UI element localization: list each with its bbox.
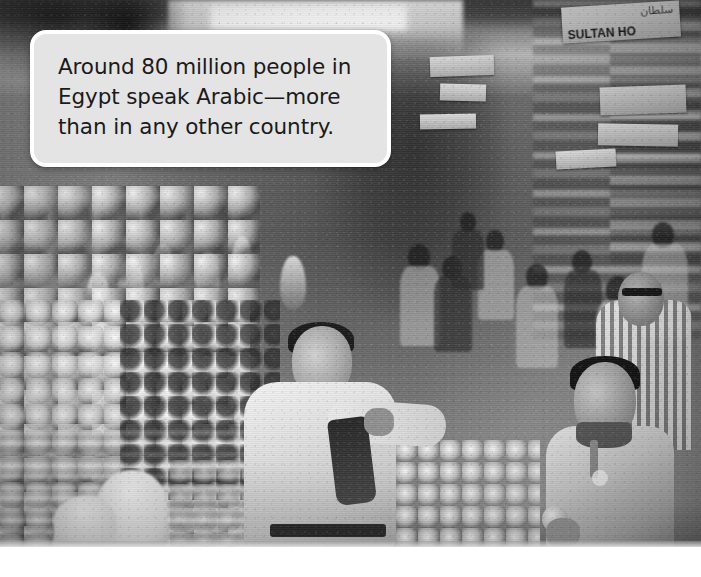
shop-placard bbox=[598, 123, 678, 146]
young-man-foreground bbox=[538, 358, 688, 547]
young-man-collar bbox=[576, 422, 632, 448]
shop-placard bbox=[440, 83, 486, 101]
shop-placard bbox=[430, 55, 495, 77]
sultan-sign-arabic-text: سلطان bbox=[640, 3, 674, 18]
caption-callout: Around 80 million people in Egypt speak … bbox=[30, 30, 391, 167]
photo-bottom-edge bbox=[0, 541, 701, 547]
market-vendor bbox=[236, 326, 446, 547]
crowd-head bbox=[460, 212, 476, 232]
sultan-shop-sign: سلطان SULTAN HO bbox=[561, 0, 681, 43]
white-robed-figure bbox=[54, 496, 116, 547]
sunglasses bbox=[622, 288, 662, 296]
crowd-body bbox=[516, 286, 558, 368]
shop-placard bbox=[420, 114, 476, 130]
page-root: سلطان SULTAN HO Around 80 million people… bbox=[0, 0, 701, 577]
sultan-sign-latin-text: SULTAN HO bbox=[567, 24, 636, 42]
shirt-logo bbox=[592, 470, 608, 486]
vendor-belt bbox=[270, 524, 386, 537]
hanging-pineapple bbox=[280, 256, 306, 310]
caption-text: Around 80 million people in Egypt speak … bbox=[58, 52, 368, 142]
shop-placard bbox=[556, 148, 617, 169]
man-striped-shirt-head bbox=[618, 272, 664, 326]
market-canopy-highlight bbox=[210, 5, 406, 30]
crowd-head bbox=[486, 230, 504, 252]
vendor-hand bbox=[364, 408, 394, 436]
crowd-body bbox=[452, 230, 484, 290]
shop-placard bbox=[600, 85, 687, 116]
